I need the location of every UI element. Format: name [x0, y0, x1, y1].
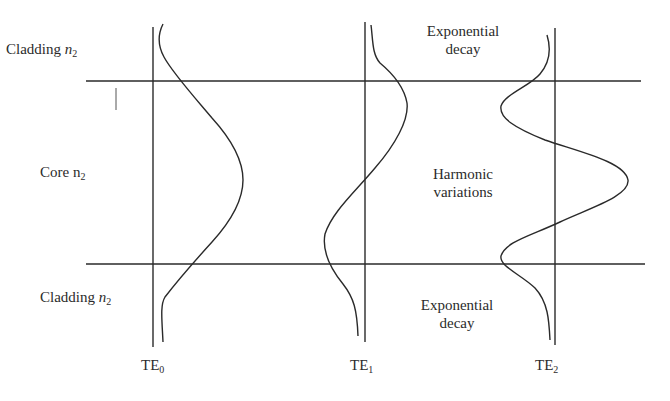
bottom-cladding-label: Cladding n2	[40, 288, 111, 306]
core-label: Core n2	[40, 163, 85, 181]
bottom-annotation-line1: Exponential	[402, 296, 512, 314]
middle-annotation-line1: Harmonic	[408, 165, 518, 183]
te0-subscript: 0	[159, 364, 164, 375]
diagram-drawing	[0, 0, 670, 401]
bottom-cladding-text: Cladding	[40, 289, 95, 305]
bottom-cladding-subscript: 2	[106, 296, 111, 307]
te2-label: TE2	[535, 356, 558, 374]
te0-label: TE0	[141, 356, 164, 374]
te1-mode-curve	[324, 25, 407, 336]
top-cladding-label: Cladding n2	[6, 40, 77, 58]
waveguide-mode-diagram: Cladding n2 Core n2 Cladding n2 Exponent…	[0, 0, 670, 401]
te0-name: TE	[141, 357, 159, 373]
top-annotation-line1: Exponential	[408, 22, 518, 40]
bottom-annotation-line2: decay	[402, 314, 512, 332]
top-exponential-decay-annotation: Exponential decay	[408, 22, 518, 58]
top-cladding-text: Cladding	[6, 41, 61, 57]
te2-subscript: 2	[553, 364, 558, 375]
te1-label: TE1	[350, 356, 373, 374]
harmonic-variations-annotation: Harmonic variations	[408, 165, 518, 201]
te1-name: TE	[350, 357, 368, 373]
top-cladding-subscript: 2	[72, 48, 77, 59]
top-annotation-line2: decay	[408, 40, 518, 58]
te2-name: TE	[535, 357, 553, 373]
core-subscript: 2	[80, 171, 85, 182]
te1-subscript: 1	[368, 364, 373, 375]
middle-annotation-line2: variations	[408, 183, 518, 201]
te0-mode-curve	[159, 24, 243, 342]
core-text: Core	[40, 164, 69, 180]
bottom-exponential-decay-annotation: Exponential decay	[402, 296, 512, 332]
